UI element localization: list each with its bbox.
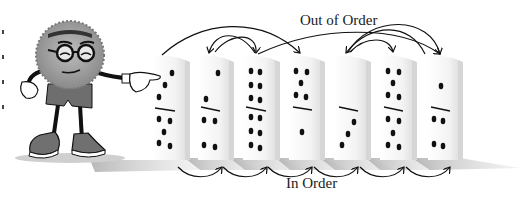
domino-1 xyxy=(152,56,190,161)
domino-2 xyxy=(198,56,234,161)
out-of-order-label: Out of Order xyxy=(300,12,377,29)
domino-4 xyxy=(289,56,325,161)
domino-shadows xyxy=(90,158,520,172)
diagram-stage: Out of Order In Order xyxy=(0,0,526,200)
diagram-canvas xyxy=(0,0,526,200)
edge-marks xyxy=(2,30,4,109)
domino-5 xyxy=(334,56,371,161)
domino-row xyxy=(152,56,463,161)
in-order-label: In Order xyxy=(286,175,337,192)
domino-6 xyxy=(380,56,417,161)
domino-3 xyxy=(243,56,280,161)
domino-7 xyxy=(428,56,463,161)
mascot-character xyxy=(15,21,160,163)
